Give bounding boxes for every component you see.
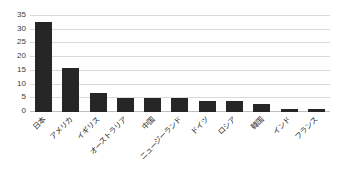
x-label-slot: ドイツ [194, 112, 221, 179]
bar [144, 98, 161, 112]
bar-series [30, 16, 330, 112]
x-axis-tick-label: ドイツ [190, 116, 210, 136]
bar-slot [194, 16, 221, 112]
x-axis-tick-label: 日本 [32, 116, 47, 131]
bar-slot [112, 16, 139, 112]
bar-slot [85, 16, 112, 112]
y-axis-tick-label: 25 [17, 38, 26, 46]
bar-slot [57, 16, 84, 112]
x-label-slot: オーストラリア [112, 112, 139, 179]
x-label-slot: 日本 [30, 112, 57, 179]
bar-slot [248, 16, 275, 112]
y-axis-tick-label: 15 [17, 66, 26, 74]
bar [171, 98, 188, 112]
bar [226, 101, 243, 112]
bar-slot [275, 16, 302, 112]
bar-slot [166, 16, 193, 112]
x-label-slot: 韓国 [248, 112, 275, 179]
y-axis-tick-label: 35 [17, 11, 26, 19]
bar [253, 104, 270, 112]
x-axis-labels: 日本アメリカイギリスオーストラリア中国ニュージーランドドイツロシア韓国インドフラ… [30, 112, 330, 179]
x-axis-tick-label: 韓国 [250, 116, 265, 131]
bar-slot [30, 16, 57, 112]
y-axis-tick-label: 5 [22, 93, 26, 101]
x-label-slot: アメリカ [57, 112, 84, 179]
x-label-slot: フランス [303, 112, 330, 179]
x-axis-tick-label: ロシア [218, 116, 238, 136]
bar [62, 68, 79, 112]
bar-slot [139, 16, 166, 112]
x-axis-tick-label: 中国 [141, 116, 156, 131]
x-label-slot: ニュージーランド [166, 112, 193, 179]
y-axis-tick-label: 10 [17, 80, 26, 88]
x-axis-tick-label: インド [272, 116, 292, 136]
bar [117, 98, 134, 112]
bar-chart: 05101520253035 日本アメリカイギリスオーストラリア中国ニュージーラ… [0, 0, 342, 179]
x-label-slot: ロシア [221, 112, 248, 179]
bar [90, 93, 107, 112]
y-axis-tick-label: 0 [22, 107, 26, 115]
x-label-slot: インド [275, 112, 302, 179]
bar [35, 22, 52, 113]
bar-slot [221, 16, 248, 112]
y-axis-tick-label: 30 [17, 25, 26, 33]
bar [199, 101, 216, 112]
plot-area: 05101520253035 [30, 16, 330, 112]
y-axis-tick-label: 20 [17, 52, 26, 60]
bar-slot [303, 16, 330, 112]
